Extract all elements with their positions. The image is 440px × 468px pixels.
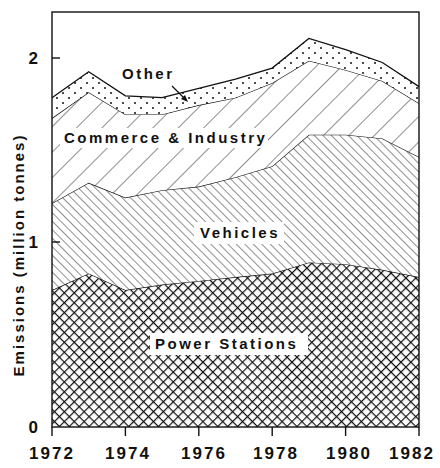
y-tick-1: 1 <box>29 233 40 252</box>
label-commerce-industry: Commerce & Industry <box>64 129 267 146</box>
x-tick-1982: 1982 <box>389 444 435 463</box>
x-tick-1980: 1980 <box>326 444 372 463</box>
x-tick-1974: 1974 <box>105 444 151 463</box>
x-tick-1972: 1972 <box>29 444 75 463</box>
label-power-stations: Power Stations <box>155 335 298 352</box>
x-tick-1978: 1978 <box>253 444 299 463</box>
x-tick-1976: 1976 <box>181 444 227 463</box>
label-vehicles: Vehicles <box>200 224 280 241</box>
y-axis-label: Emissions (million tonnes) <box>10 134 27 377</box>
label-other: Other <box>122 65 175 82</box>
y-tick-2: 2 <box>29 49 40 68</box>
x-axis: 1972 1974 1976 1978 1980 1982 <box>29 427 435 463</box>
y-tick-0: 0 <box>29 418 40 437</box>
stacked-area-chart: 2 1 0 Emissions (million tonnes) 1972 19… <box>0 0 440 468</box>
